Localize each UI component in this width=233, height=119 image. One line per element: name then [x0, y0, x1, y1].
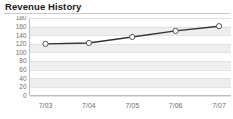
y-axis-tick-label: 60: [19, 66, 27, 73]
data-point-marker[interactable]: [216, 24, 221, 29]
y-axis-tick-label: 120: [16, 40, 27, 47]
x-axis-tick-label: 7/05: [125, 102, 139, 109]
x-axis-tick-label: 7/07: [212, 102, 226, 109]
y-axis-tick-label: 100: [16, 49, 27, 56]
panel-header: Revenue History: [0, 0, 233, 15]
y-axis-tick-label: 0: [23, 92, 27, 99]
y-axis-tick-label: 20: [19, 83, 27, 90]
chart-plot-area: 180160140120100806040200 7/037/047/057/0…: [0, 16, 233, 119]
data-point-marker[interactable]: [86, 40, 91, 45]
y-axis-tick-label: 180: [16, 16, 27, 21]
x-axis-tick-label: 7/03: [39, 102, 53, 109]
y-axis-tick-label: 80: [19, 57, 27, 64]
x-axis-tick-label: 7/06: [169, 102, 183, 109]
y-axis-tick-labels: 180160140120100806040200: [16, 16, 27, 99]
header-divider: [4, 13, 230, 14]
y-axis-tick-label: 140: [16, 32, 27, 39]
line-chart-svg: 180160140120100806040200 7/037/047/057/0…: [0, 16, 233, 119]
x-axis-tick-labels: 7/037/047/057/067/07: [39, 102, 226, 109]
y-axis-tick-label: 40: [19, 75, 27, 82]
page-title: Revenue History: [5, 1, 81, 12]
data-point-marker[interactable]: [173, 28, 178, 33]
data-point-marker[interactable]: [130, 34, 135, 39]
y-axis-tick-label: 160: [16, 23, 27, 30]
data-point-marker[interactable]: [43, 41, 48, 46]
revenue-history-chart-panel: Revenue History 180160140120100806040200…: [0, 0, 233, 119]
x-axis-tick-label: 7/04: [82, 102, 96, 109]
